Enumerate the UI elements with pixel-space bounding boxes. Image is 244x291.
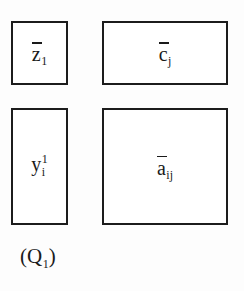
symbol-a-subscript: ij xyxy=(166,169,173,181)
symbol-y-base: y xyxy=(31,154,41,174)
symbol-y-subscript: i xyxy=(42,166,45,178)
symbol-y-superscript: 1 xyxy=(42,153,48,165)
symbol-c-base: c xyxy=(159,42,168,64)
math-expression-z: z1 xyxy=(32,42,47,64)
block-c-bar-j: cj xyxy=(102,21,228,85)
symbol-a-base: a xyxy=(157,156,166,178)
symbol-c-subscript: j xyxy=(168,55,171,67)
caption-symbol: Q xyxy=(27,246,42,267)
symbol-y-indices: 1i xyxy=(42,153,48,178)
figure-caption: (Q1) xyxy=(20,246,56,267)
block-z-bar-1: z1 xyxy=(11,21,68,85)
math-expression-c: cj xyxy=(159,42,172,64)
math-expression-y: y1i xyxy=(31,154,48,179)
caption-subscript: 1 xyxy=(43,258,49,270)
caption-close-paren: ) xyxy=(49,246,56,267)
symbol-z-subscript: 1 xyxy=(41,55,47,67)
tableau-figure: z1 cj y1i aij (Q1) xyxy=(0,0,244,291)
block-y-i-1: y1i xyxy=(11,108,68,225)
math-expression-a: aij xyxy=(157,156,173,178)
caption-open-paren: ( xyxy=(20,246,27,267)
symbol-z-base: z xyxy=(32,42,41,64)
block-a-bar-ij: aij xyxy=(102,108,228,225)
